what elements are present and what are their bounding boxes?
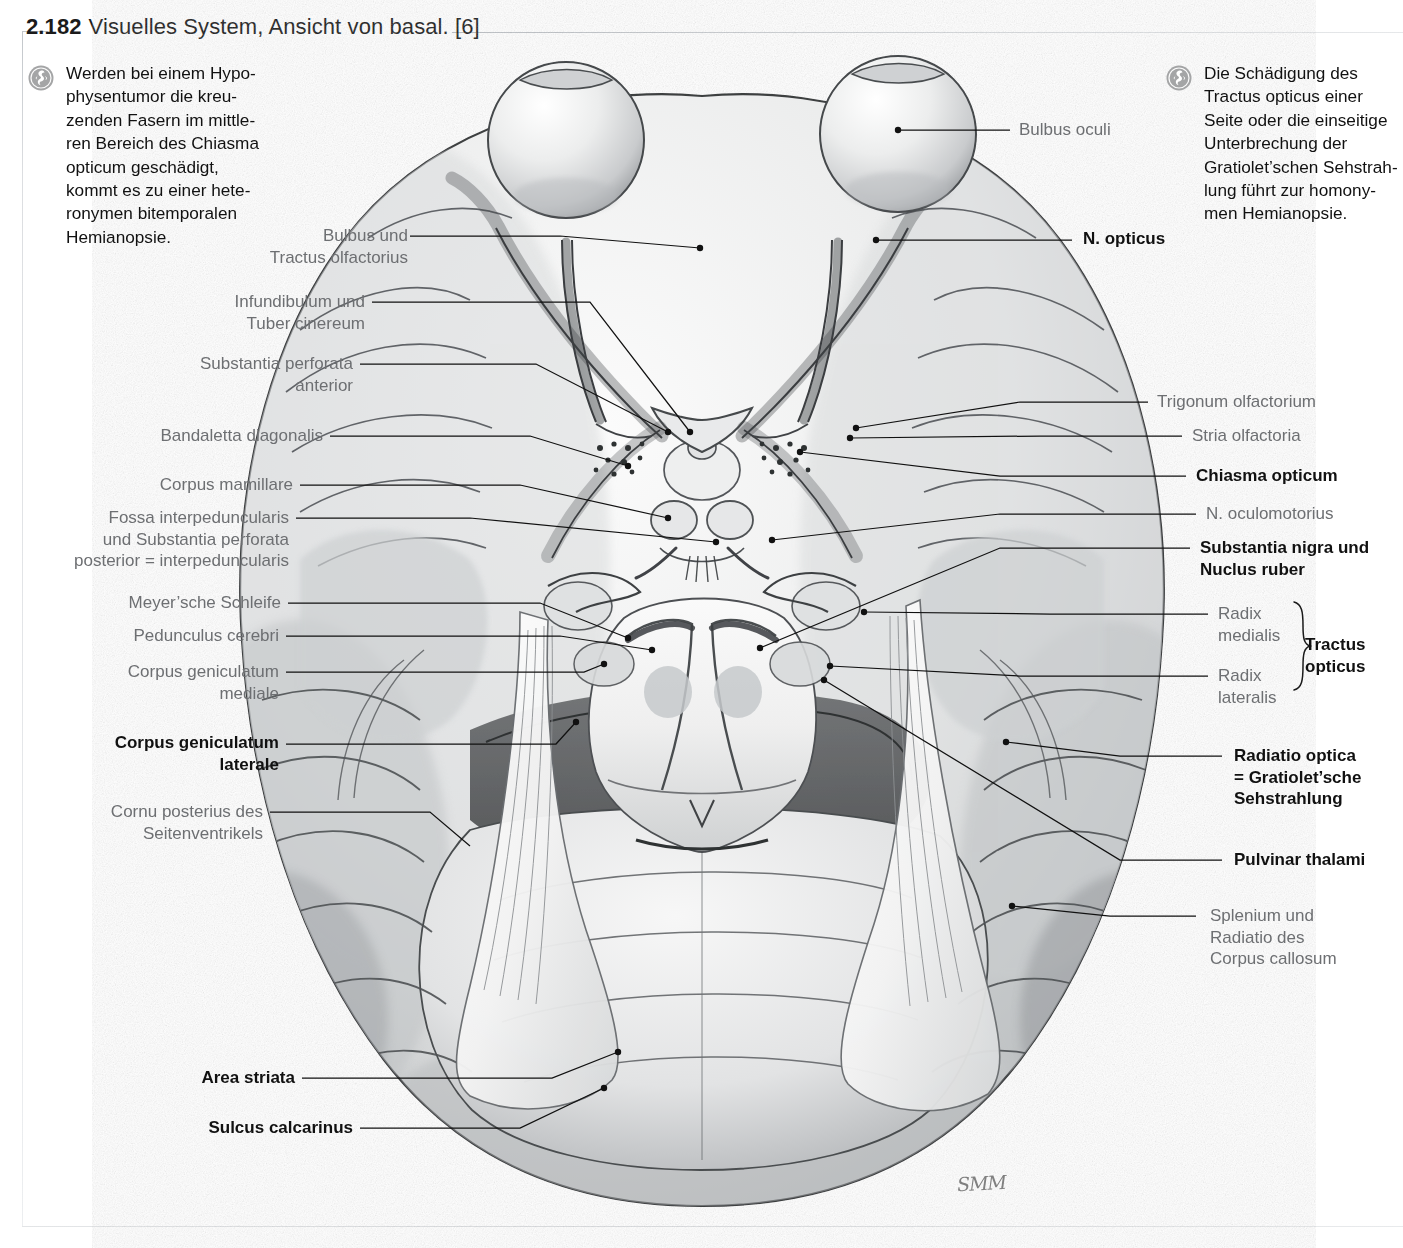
label-radix-lateralis: Radix lateralis xyxy=(1218,665,1277,708)
label-corpus-geniculatum-laterale: Corpus geniculatum laterale xyxy=(30,732,279,775)
note-line: Die Schädigung des xyxy=(1204,62,1403,85)
label-corpus-mamillare: Corpus mamillare xyxy=(40,474,293,496)
label-line: posterior = interpeduncularis xyxy=(30,550,289,572)
label-pedunculus-cerebri: Pedunculus cerebri xyxy=(30,625,279,647)
label-line: N. oculomotorius xyxy=(1206,503,1334,525)
label-line: mediale xyxy=(30,683,279,705)
label-n-oculomotorius: N. oculomotorius xyxy=(1206,503,1334,525)
note-line: Tractus opticus einer xyxy=(1204,85,1403,108)
label-tractus-opticus-group: Tractus opticus xyxy=(1305,634,1365,677)
clinical-note-left-text: Werden bei einem Hypo- physentumor die k… xyxy=(66,62,298,249)
note-line: Gratiolet’schen Sehstrah- xyxy=(1204,156,1403,179)
label-line: opticus xyxy=(1305,656,1365,678)
label-line: Stria olfactoria xyxy=(1192,425,1301,447)
label-line: Seitenventrikels xyxy=(20,823,263,845)
note-line: Seite oder die einseitige xyxy=(1204,109,1403,132)
label-substantia-nigra-nucleus-ruber: Substantia nigra und Nuclus ruber xyxy=(1200,537,1369,580)
label-infundibulum-tuber-cinereum: Infundibulum und Tuber cinereum xyxy=(110,291,365,334)
label-line: Infundibulum und xyxy=(110,291,365,313)
label-line: lateralis xyxy=(1218,687,1277,709)
artist-signature: SMM xyxy=(956,1171,1006,1196)
label-meyersche-schleife: Meyer’sche Schleife xyxy=(30,592,281,614)
label-line: Tractus xyxy=(1305,634,1365,656)
label-chiasma-opticum: Chiasma opticum xyxy=(1196,465,1338,487)
label-bulbus-oculi: Bulbus oculi xyxy=(1019,119,1111,141)
label-line: Pedunculus cerebri xyxy=(30,625,279,647)
label-line: Corpus geniculatum xyxy=(30,732,279,754)
label-line: Cornu posterius des xyxy=(20,801,263,823)
clinical-note-right-text: Die Schädigung des Tractus opticus einer… xyxy=(1204,62,1403,226)
label-area-striata: Area striata xyxy=(60,1067,295,1089)
label-bandaletta-diagonalis: Bandaletta diagonalis xyxy=(70,425,323,447)
label-n-opticus: N. opticus xyxy=(1083,228,1165,250)
label-line: N. opticus xyxy=(1083,228,1165,250)
label-bulbus-tractus-olfactorius: Bulbus und Tractus olfactorius xyxy=(150,225,408,268)
clinical-badge-icon xyxy=(28,65,54,91)
label-line: Corpus mamillare xyxy=(40,474,293,496)
atlas-page: 2.182Visuelles System, Ansicht von basal… xyxy=(0,0,1403,1248)
label-line: Area striata xyxy=(60,1067,295,1089)
clinical-note-right: Die Schädigung des Tractus opticus einer… xyxy=(1166,62,1403,226)
label-line: Tuber cinereum xyxy=(110,313,365,335)
note-line: lung führt zur homony- xyxy=(1204,179,1403,202)
label-line: laterale xyxy=(30,754,279,776)
label-line: Radiatio des xyxy=(1210,927,1337,949)
note-line: kommt es zu einer hete- xyxy=(66,179,298,202)
label-line: Bulbus oculi xyxy=(1019,119,1111,141)
bulbus-oculi-left xyxy=(488,62,644,218)
note-line: Werden bei einem Hypo- xyxy=(66,62,298,85)
label-line: Pulvinar thalami xyxy=(1234,849,1365,871)
label-radiatio-optica: Radiatio optica = Gratiolet’sche Sehstra… xyxy=(1234,745,1361,810)
label-line: Bulbus und xyxy=(150,225,408,247)
label-cornu-posterius-seitenventrikels: Cornu posterius des Seitenventrikels xyxy=(20,801,263,844)
label-line: Sulcus calcarinus xyxy=(60,1117,353,1139)
label-trigonum-olfactorium: Trigonum olfactorium xyxy=(1157,391,1316,413)
label-line: anterior xyxy=(100,375,353,397)
label-line: Trigonum olfactorium xyxy=(1157,391,1316,413)
clinical-badge-icon xyxy=(1166,65,1192,91)
label-line: Substantia nigra und xyxy=(1200,537,1369,559)
label-line: Chiasma opticum xyxy=(1196,465,1338,487)
label-sulcus-calcarinus: Sulcus calcarinus xyxy=(60,1117,353,1139)
label-line: und Substantia perforata xyxy=(30,529,289,551)
label-splenium-radiatio-corpus-callosum: Splenium und Radiatio des Corpus callosu… xyxy=(1210,905,1337,970)
bulbus-oculi-right xyxy=(820,56,976,212)
note-line: zenden Fasern im mittle- xyxy=(66,109,298,132)
note-line: ronymen bitemporalen xyxy=(66,202,298,225)
label-line: Splenium und xyxy=(1210,905,1337,927)
label-line: Meyer’sche Schleife xyxy=(30,592,281,614)
clinical-note-left: Werden bei einem Hypo- physentumor die k… xyxy=(28,62,298,249)
note-line: Unterbrechung der xyxy=(1204,132,1403,155)
note-line: ren Bereich des Chiasma xyxy=(66,132,298,155)
label-line: Tractus olfactorius xyxy=(150,247,408,269)
label-line: Substantia perforata xyxy=(100,353,353,375)
label-stria-olfactoria: Stria olfactoria xyxy=(1192,425,1301,447)
label-fossa-interpeduncularis: Fossa interpeduncularis und Substantia p… xyxy=(30,507,289,572)
label-line: Corpus callosum xyxy=(1210,948,1337,970)
label-line: Radix xyxy=(1218,603,1280,625)
label-pulvinar-thalami: Pulvinar thalami xyxy=(1234,849,1365,871)
label-line: Corpus geniculatum xyxy=(30,661,279,683)
label-line: Radix xyxy=(1218,665,1277,687)
label-corpus-geniculatum-mediale: Corpus geniculatum mediale xyxy=(30,661,279,704)
note-line: men Hemianopsie. xyxy=(1204,202,1403,225)
label-substantia-perforata-anterior: Substantia perforata anterior xyxy=(100,353,353,396)
label-line: Nuclus ruber xyxy=(1200,559,1369,581)
note-line: physentumor die kreu- xyxy=(66,85,298,108)
label-radix-medialis: Radix medialis xyxy=(1218,603,1280,646)
label-line: Radiatio optica xyxy=(1234,745,1361,767)
note-line: opticum geschädigt, xyxy=(66,156,298,179)
label-line: Sehstrahlung xyxy=(1234,788,1361,810)
label-line: Fossa interpeduncularis xyxy=(30,507,289,529)
label-line: = Gratiolet’sche xyxy=(1234,767,1361,789)
label-line: Bandaletta diagonalis xyxy=(70,425,323,447)
label-line: medialis xyxy=(1218,625,1280,647)
